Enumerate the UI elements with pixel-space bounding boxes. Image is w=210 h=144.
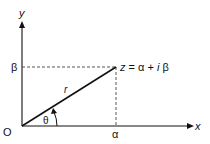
point-label-mid: = α + <box>126 61 157 73</box>
argand-diagram: y x O β α r θ z = α + i β <box>0 0 210 144</box>
beta-label: β <box>11 61 17 73</box>
x-axis-arrow-icon <box>187 123 194 129</box>
alpha-label: α <box>112 128 119 140</box>
angle-arrow-icon <box>51 108 57 114</box>
radius-vector <box>22 67 116 126</box>
origin-label: O <box>3 126 12 138</box>
angle-label: θ <box>43 115 49 126</box>
point-label-beta: β <box>159 61 168 73</box>
y-axis-arrow-icon <box>19 21 25 28</box>
angle-arc <box>54 112 57 126</box>
x-axis-label: x <box>194 120 201 132</box>
point-label: z = α + i β <box>119 61 169 73</box>
radius-label: r <box>64 84 68 95</box>
y-axis-label: y <box>18 7 26 19</box>
